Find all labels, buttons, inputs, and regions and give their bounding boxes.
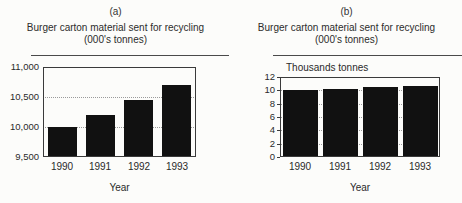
- y-axis-tick-mark: [277, 117, 280, 118]
- y-axis-unit-label: Thousands tonnes: [286, 62, 368, 73]
- y-axis-tick-label: 10,500: [0, 92, 39, 102]
- figure-recycling-charts: (a) Burger carton material sent for recy…: [0, 0, 462, 203]
- bar-chart-b: 0246810121990199119921993YearThousands t…: [231, 0, 462, 203]
- panel-b: (b) Burger carton material sent for recy…: [231, 0, 462, 203]
- y-axis-tick-label: 12: [231, 72, 275, 82]
- y-axis-tick-label: 8: [231, 99, 275, 109]
- y-axis-tick-mark: [277, 90, 280, 91]
- x-axis-title: Year: [280, 182, 440, 193]
- y-axis-tick-label: 4: [231, 125, 275, 135]
- y-axis-tick-mark: [277, 104, 280, 105]
- y-axis-tick-mark: [277, 130, 280, 131]
- x-axis-tick-label: 1992: [360, 161, 400, 172]
- bar-1990: [48, 127, 77, 156]
- y-axis-tick-mark: [277, 144, 280, 145]
- x-axis-tick-label: 1993: [158, 161, 196, 172]
- y-axis-tick-label: 10: [231, 85, 275, 95]
- x-axis-tick-label: 1990: [280, 161, 320, 172]
- y-axis-tick-mark: [277, 157, 280, 158]
- y-axis-tick-label: 0: [231, 152, 275, 162]
- x-axis-tick-label: 1992: [120, 161, 158, 172]
- bar-1990: [283, 90, 318, 156]
- panel-a: (a) Burger carton material sent for recy…: [0, 0, 231, 203]
- bar-chart-a: 9,50010,00010,50011,0001990199119921993Y…: [0, 0, 231, 203]
- x-axis-tick-label: 1990: [43, 161, 81, 172]
- bar-1993: [162, 85, 191, 156]
- bar-1992: [124, 100, 153, 156]
- x-axis-tick-label: 1991: [81, 161, 119, 172]
- x-axis-title: Year: [43, 182, 196, 193]
- bar-1993: [403, 86, 438, 156]
- bar-1991: [323, 89, 358, 156]
- bar-1992: [363, 87, 398, 156]
- y-axis-tick-label: 11,000: [0, 62, 39, 72]
- bar-1991: [86, 115, 115, 156]
- y-axis-tick-label: 6: [231, 112, 275, 122]
- y-axis-tick-mark: [277, 77, 280, 78]
- y-axis-tick-label: 9,500: [0, 152, 39, 162]
- x-axis-tick-label: 1993: [400, 161, 440, 172]
- y-axis-tick-label: 10,000: [0, 122, 39, 132]
- x-axis-tick-label: 1991: [320, 161, 360, 172]
- y-axis-tick-label: 2: [231, 139, 275, 149]
